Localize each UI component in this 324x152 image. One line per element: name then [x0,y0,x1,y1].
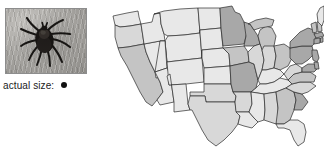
state-MN [220,6,248,46]
tick-and-distribution-figure: actual size: [0,0,324,152]
state-KS [204,66,231,84]
united-states-choropleth-map [108,0,324,152]
state-RI [321,38,324,43]
tick-photograph [5,8,87,74]
actual-size-annotation: actual size: [3,78,67,92]
state-FL [276,120,306,146]
state-AL [264,92,278,124]
state-OR [115,24,144,48]
photo-panel: actual size: [0,0,110,152]
photo-vignette [6,9,86,73]
us-map-panel [108,0,324,152]
actual-size-label: actual size: [3,80,54,91]
states-layer [113,6,324,146]
state-IN [262,46,276,70]
state-GA [276,88,296,124]
state-SC [294,92,308,110]
state-PA [290,46,314,64]
state-OH [274,44,292,70]
actual-size-dot-icon [61,82,67,88]
state-WY [165,33,202,62]
state-CO [167,58,204,85]
state-NJ [312,50,319,62]
state-NY [290,28,316,48]
state-TX [188,96,240,146]
state-DE [314,62,319,69]
state-MO [230,62,258,92]
state-MA [314,32,324,38]
state-AR [233,92,252,112]
state-CT [314,38,320,44]
